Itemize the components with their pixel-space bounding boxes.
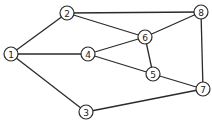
- node-label: 6: [142, 33, 148, 43]
- node-4: 4: [81, 47, 95, 61]
- node-label: 7: [200, 85, 206, 95]
- edge-2-6: [67, 13, 145, 37]
- node-8: 8: [194, 5, 208, 19]
- node-label: 5: [150, 70, 156, 80]
- edge-1-2: [11, 13, 67, 54]
- node-label: 3: [83, 108, 89, 118]
- node-label: 4: [85, 50, 91, 60]
- edge-8-7: [201, 12, 203, 89]
- graph-diagram: 12345678: [0, 0, 212, 123]
- edges: [11, 12, 203, 112]
- node-2: 2: [60, 6, 74, 20]
- node-5: 5: [146, 67, 160, 81]
- edge-4-5: [88, 54, 153, 74]
- edge-5-7: [153, 74, 203, 89]
- node-label: 2: [64, 9, 70, 19]
- edge-1-3: [11, 54, 86, 112]
- node-7: 7: [196, 82, 210, 96]
- edge-2-8: [67, 12, 201, 13]
- node-3: 3: [79, 105, 93, 119]
- node-label: 8: [198, 8, 204, 18]
- node-label: 1: [8, 50, 14, 60]
- edge-4-6: [88, 37, 145, 54]
- edge-3-7: [86, 89, 203, 112]
- node-6: 6: [138, 30, 152, 44]
- edge-6-8: [145, 12, 201, 37]
- node-1: 1: [4, 47, 18, 61]
